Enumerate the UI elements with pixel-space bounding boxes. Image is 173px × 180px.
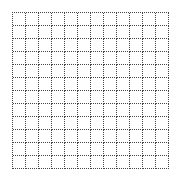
grid-cell[interactable] [52, 39, 65, 52]
grid-cell[interactable] [91, 104, 104, 117]
grid-cell[interactable] [65, 26, 78, 39]
grid-cell[interactable] [13, 156, 26, 169]
grid-cell[interactable] [104, 156, 117, 169]
grid-cell[interactable] [39, 65, 52, 78]
grid-cell[interactable] [117, 117, 130, 130]
grid-cell[interactable] [78, 65, 91, 78]
grid-cell[interactable] [52, 26, 65, 39]
grid-cell[interactable] [65, 78, 78, 91]
grid-cell[interactable] [117, 13, 130, 26]
grid-cell[interactable] [65, 13, 78, 26]
grid-cell[interactable] [13, 130, 26, 143]
grid-cell[interactable] [78, 39, 91, 52]
grid-cell[interactable] [52, 91, 65, 104]
grid-cell[interactable] [65, 143, 78, 156]
grid-cell[interactable] [78, 78, 91, 91]
grid-cell[interactable] [143, 13, 156, 26]
grid-cell[interactable] [156, 117, 169, 130]
grid-cell[interactable] [52, 104, 65, 117]
grid-cell[interactable] [78, 104, 91, 117]
grid-cell[interactable] [130, 156, 143, 169]
grid-cell[interactable] [117, 104, 130, 117]
grid-cell[interactable] [104, 143, 117, 156]
grid-cell[interactable] [13, 26, 26, 39]
grid-cell[interactable] [117, 143, 130, 156]
grid-cell[interactable] [39, 52, 52, 65]
grid-cell[interactable] [52, 130, 65, 143]
grid-cell[interactable] [13, 13, 26, 26]
grid-cell[interactable] [26, 156, 39, 169]
grid-cell[interactable] [78, 52, 91, 65]
grid-cell[interactable] [104, 91, 117, 104]
grid-cell[interactable] [78, 26, 91, 39]
grid-cell[interactable] [117, 52, 130, 65]
grid-cell[interactable] [156, 78, 169, 91]
grid-cell[interactable] [26, 91, 39, 104]
grid-cell[interactable] [143, 91, 156, 104]
grid-cell[interactable] [13, 104, 26, 117]
grid-cell[interactable] [143, 117, 156, 130]
grid-cell[interactable] [117, 91, 130, 104]
grid-cell[interactable] [104, 104, 117, 117]
grid-cell[interactable] [52, 143, 65, 156]
grid-cell[interactable] [91, 78, 104, 91]
grid-cell[interactable] [104, 39, 117, 52]
grid-cell[interactable] [91, 143, 104, 156]
grid-cell[interactable] [104, 65, 117, 78]
grid-cell[interactable] [39, 156, 52, 169]
grid-cell[interactable] [52, 117, 65, 130]
grid-cell[interactable] [91, 13, 104, 26]
grid-cell[interactable] [39, 104, 52, 117]
grid-cell[interactable] [52, 13, 65, 26]
grid-cell[interactable] [65, 104, 78, 117]
grid-cell[interactable] [52, 78, 65, 91]
grid-cell[interactable] [156, 52, 169, 65]
grid-cell[interactable] [143, 26, 156, 39]
grid-cell[interactable] [39, 143, 52, 156]
grid-cell[interactable] [52, 65, 65, 78]
grid-cell[interactable] [156, 143, 169, 156]
grid-cell[interactable] [26, 117, 39, 130]
grid-cell[interactable] [143, 65, 156, 78]
grid-cell[interactable] [91, 65, 104, 78]
grid-cell[interactable] [130, 39, 143, 52]
grid-cell[interactable] [65, 52, 78, 65]
grid-cell[interactable] [26, 78, 39, 91]
grid-cell[interactable] [78, 117, 91, 130]
grid-cell[interactable] [52, 52, 65, 65]
grid-cell[interactable] [13, 143, 26, 156]
grid-cell[interactable] [26, 13, 39, 26]
grid-cell[interactable] [78, 143, 91, 156]
grid-cell[interactable] [104, 13, 117, 26]
grid-cell[interactable] [130, 13, 143, 26]
grid-cell[interactable] [156, 104, 169, 117]
grid-cell[interactable] [117, 65, 130, 78]
grid-cell[interactable] [65, 91, 78, 104]
grid-cell[interactable] [130, 65, 143, 78]
grid-cell[interactable] [156, 65, 169, 78]
grid-cell[interactable] [26, 65, 39, 78]
grid-cell[interactable] [143, 78, 156, 91]
grid-cell[interactable] [130, 26, 143, 39]
grid-cell[interactable] [91, 91, 104, 104]
grid-cell[interactable] [91, 130, 104, 143]
grid-cell[interactable] [143, 52, 156, 65]
grid-cell[interactable] [143, 39, 156, 52]
grid-cell[interactable] [91, 117, 104, 130]
grid-cell[interactable] [117, 26, 130, 39]
grid-cell[interactable] [39, 130, 52, 143]
grid-cell[interactable] [130, 91, 143, 104]
grid-cell[interactable] [156, 26, 169, 39]
grid-cell[interactable] [78, 156, 91, 169]
grid-cell[interactable] [26, 104, 39, 117]
grid-cell[interactable] [143, 130, 156, 143]
grid-cell[interactable] [65, 130, 78, 143]
grid-cell[interactable] [13, 52, 26, 65]
grid-cell[interactable] [65, 65, 78, 78]
grid-cell[interactable] [13, 78, 26, 91]
grid-cell[interactable] [39, 39, 52, 52]
grid-cell[interactable] [91, 26, 104, 39]
grid-cell[interactable] [65, 117, 78, 130]
grid-cell[interactable] [39, 91, 52, 104]
grid-cell[interactable] [104, 130, 117, 143]
